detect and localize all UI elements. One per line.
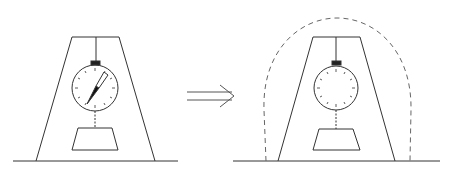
weight — [313, 129, 360, 150]
gauge-ticks — [317, 69, 355, 107]
left-panel — [13, 37, 178, 161]
needle-light — [96, 72, 108, 88]
gauge-cap — [91, 61, 100, 65]
gauge-cap — [332, 61, 341, 65]
right-panel — [233, 18, 440, 161]
gauge-dial — [314, 66, 358, 110]
implies-arrow — [187, 85, 234, 107]
needle-dark — [87, 86, 99, 104]
weight — [72, 128, 118, 150]
diagram-canvas — [0, 0, 453, 173]
